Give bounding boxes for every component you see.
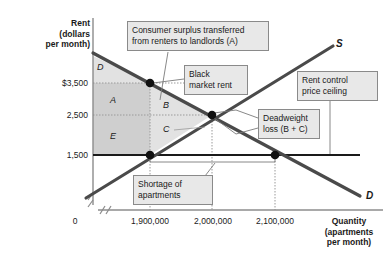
y-axis-title-line-1: Rent [10, 18, 90, 29]
y-tick-1500: 1,500 [33, 150, 88, 161]
callout-rent-control-ceiling-line-1: Rent control [302, 75, 373, 86]
callout-consumer-surplus-line-2: from renters to landlords (A) [132, 36, 264, 47]
demand-curve-label: D [366, 190, 373, 201]
region-label-e: E [110, 131, 116, 141]
point-quantity-supplied [146, 151, 155, 160]
callout-rent-control-ceiling: Rent control price ceiling [297, 71, 378, 101]
x-axis-title: Quantity (apartments per month) [313, 216, 385, 248]
point-quantity-demanded [271, 151, 280, 160]
region-c-shape [150, 115, 212, 155]
point-market-equilibrium [208, 111, 217, 120]
point-black-market-rent [146, 79, 155, 88]
region-label-b: B [163, 100, 169, 110]
supply-curve-label: S [336, 38, 343, 49]
callout-black-market-rent-line-1: Black [189, 69, 243, 80]
x-axis-title-line-3: per month) [313, 237, 385, 248]
region-a-shape [93, 83, 150, 115]
callout-consumer-surplus-line-1: Consumer surplus transferred [132, 25, 264, 36]
callout-shortage: Shortage of apartments [133, 175, 213, 205]
callout-deadweight-loss-line-2: loss (B + C) [263, 124, 315, 135]
callout-shortage-line-1: Shortage of [138, 179, 208, 190]
y-tick-3500: $3,500 [33, 78, 88, 89]
callout-black-market-rent: Black market rent [184, 65, 248, 95]
x-tick-0: 0 [65, 216, 85, 227]
callout-shortage-line-2: apartments [138, 190, 208, 201]
y-axis-title-line-3: per month) [10, 39, 90, 50]
y-axis-title: Rent (dollars per month) [10, 18, 90, 50]
leader-black-market-rent [153, 79, 184, 83]
y-tick-2500: 2,500 [33, 110, 88, 121]
rent-control-diagram: Rent (dollars per month) $3,500 2,500 1,… [0, 0, 388, 263]
callout-consumer-surplus: Consumer surplus transferred from renter… [127, 21, 269, 51]
x-axis-title-line-2: (apartments [313, 227, 385, 238]
x-axis-title-line-1: Quantity [313, 216, 385, 227]
region-label-c: C [163, 124, 170, 134]
callout-black-market-rent-line-2: market rent [189, 80, 243, 91]
y-axis-title-line-2: (dollars [10, 29, 90, 40]
callout-deadweight-loss: Deadweight loss (B + C) [258, 109, 320, 139]
region-e-shape [93, 115, 150, 155]
x-tick-2100000: 2,100,000 [243, 216, 307, 227]
x-tick-2000000: 2,000,000 [181, 216, 245, 227]
x-tick-1900000: 1,900,000 [118, 216, 182, 227]
region-label-d: D [97, 62, 104, 72]
region-label-a: A [110, 95, 116, 105]
callout-rent-control-ceiling-line-2: price ceiling [302, 86, 373, 97]
callout-deadweight-loss-line-1: Deadweight [263, 113, 315, 124]
